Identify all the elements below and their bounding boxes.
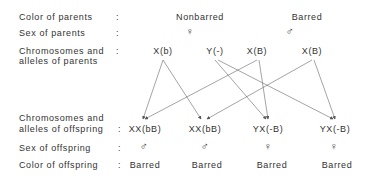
offspring-3-chromosomes: YX(-B) xyxy=(253,124,284,134)
offspring-1-chromosomes: XX(bB) xyxy=(129,124,162,134)
male-symbol-icon: ♂ xyxy=(140,141,149,151)
offspring-1-color: Barred xyxy=(130,160,161,170)
offspring-4-color: Barred xyxy=(322,160,353,170)
female-symbol-icon: ♀ xyxy=(264,141,273,151)
offspring-3-color: Barred xyxy=(257,160,288,170)
offspring-2-chromosomes: XX(bB) xyxy=(189,124,222,134)
male-symbol-icon: ♂ xyxy=(201,141,210,151)
offspring-2-color: Barred xyxy=(192,160,223,170)
offspring-4-chromosomes: YX(-B) xyxy=(320,124,351,134)
inheritance-arrows xyxy=(0,0,373,179)
female-symbol-icon: ♀ xyxy=(330,141,339,151)
